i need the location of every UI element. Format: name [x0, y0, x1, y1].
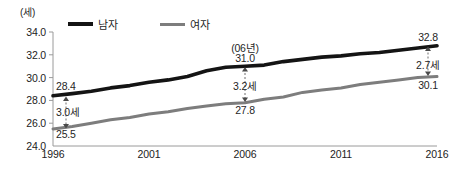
- annotation-male-value-2006: 31.0: [235, 52, 255, 64]
- annotation-gap-2006: 3.2세: [233, 78, 257, 93]
- x-tick-1996: 1996: [42, 148, 65, 160]
- x-tick-2006: 2006: [234, 148, 257, 160]
- annotation-female-value-2016: 30.1: [418, 79, 438, 91]
- annotation-gap-2016: 2.7세: [416, 57, 440, 72]
- annotation-female-value-2006: 27.8: [235, 104, 255, 116]
- gap-arrow-head-down-2016: [425, 72, 431, 77]
- gap-arrow-head-up-1996: [63, 97, 69, 102]
- annotation-gap-1996: 3.0세: [56, 104, 80, 119]
- x-tick-2016: 2016: [426, 148, 449, 160]
- x-tick-2011: 2011: [330, 148, 352, 160]
- annotation-male-value-2016: 32.8: [418, 31, 438, 43]
- annotation-male-value-1996: 28.4: [56, 80, 76, 92]
- x-tick-2001: 2001: [138, 148, 161, 160]
- line-chart: (세) 남자 여자 34.0 32.0 30.0 28.0 26.0 24.0: [0, 0, 459, 172]
- annotation-female-value-1996: 25.5: [56, 128, 76, 140]
